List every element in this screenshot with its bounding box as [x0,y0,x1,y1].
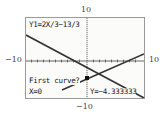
graph-canvas [26,18,144,98]
equation-label: Y1=2X/3−13/3 [29,21,80,29]
y-readout: Y=−4.333333 [90,88,136,96]
prompt-text: First curve? [29,77,80,85]
y-min-label: −10 [76,103,93,111]
y-max-label: 10 [81,6,91,14]
axes [26,18,144,98]
x-readout: X=0 [29,88,42,96]
calculator-screen: Y1=2X/3−13/3 First curve? X=0 Y=−4.33333… [25,17,145,99]
trace-cursor [85,76,89,80]
x-min-label: −10 [5,56,22,64]
x-max-label: 10 [149,56,159,64]
